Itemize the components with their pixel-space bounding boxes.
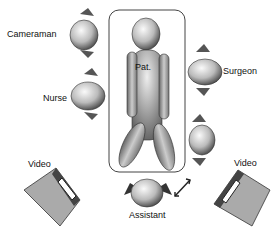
patient-label: Pat. — [135, 62, 151, 72]
cameraman-figure — [70, 8, 98, 58]
cameraman-label: Cameraman — [7, 29, 57, 39]
video-monitor-right — [214, 170, 270, 226]
assistant-label: Assistant — [129, 210, 166, 220]
patient-figure — [114, 18, 179, 173]
video-label-left: Video — [28, 159, 51, 169]
second-surgeon-figure — [189, 114, 215, 166]
surgeon-figure — [188, 44, 222, 96]
movement-arrow — [175, 179, 190, 196]
assistant-figure — [124, 179, 172, 207]
video-label-right: Video — [234, 158, 257, 168]
video-monitor-left — [24, 168, 80, 226]
nurse-label: Nurse — [43, 93, 67, 103]
nurse-figure — [71, 68, 105, 120]
surgeon-label: Surgeon — [223, 66, 257, 76]
